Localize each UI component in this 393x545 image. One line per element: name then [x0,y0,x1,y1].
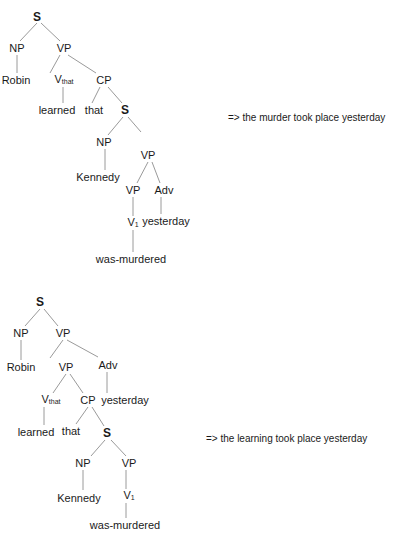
tree-edge [152,162,160,183]
tree1-leaf-robin: Robin [2,74,31,86]
tree2-leaf-was-murdered: was-murdered [90,519,160,531]
tree-edge [50,55,60,73]
tree1-node-adv: Adv [155,184,174,196]
tree1-node-NP: NP [9,42,24,54]
tree1-leaf-was-murdered: was-murdered [96,253,166,265]
tree2-node-vthat: Vthat [41,393,60,408]
tree-edge [68,55,96,73]
tree-edge [76,407,88,424]
tree1-node-S-embedded: S [121,104,129,116]
tree2-gloss: => the learning took place yesterday [206,433,367,445]
tree1-leaf-yesterday: yesterday [142,215,190,227]
tree-edge [44,309,58,326]
tree1-leaf-that: that [85,104,103,116]
tree2-node-VP: VP [56,327,71,339]
tree1-leaf-kennedy: Kennedy [76,171,119,183]
tree1-node-v1: V1 [127,216,138,231]
tree2-node-v1: V1 [123,489,134,504]
tree1-node-VP-embedded: VP [141,149,156,161]
tree-edge [137,162,148,183]
tree1-node-CP: CP [96,74,111,86]
tree1-node-VP: VP [57,42,72,54]
tree2-leaf-learned: learned [18,426,55,438]
tree2-leaf-yesterday: yesterday [101,394,149,406]
tree2-node-S: S [36,296,44,308]
tree-edge [91,440,105,456]
tree-edge [108,87,122,103]
tree-edge [41,23,60,41]
tree2-node-S-embedded: S [103,427,111,439]
tree-edge [20,23,37,41]
tree1-gloss: => the murder took place yesterday [228,112,385,124]
tree1-node-VP-inner: VP [126,184,141,196]
tree2-leaf-that: that [62,425,80,437]
tree2-node-VP-inner: VP [59,361,74,373]
tree1-node-S: S [33,11,41,23]
tree1-leaf-learned: learned [39,104,76,116]
tree-edge [111,440,126,456]
tree-edge [53,374,66,393]
tree2-node-CP: CP [80,394,95,406]
tree2-leaf-kennedy: Kennedy [57,492,100,504]
tree-edge [92,87,100,103]
tree-edge [108,117,123,135]
tree1-node-NP-embedded: NP [96,136,111,148]
tree2-node-NP: NP [13,327,28,339]
tree2-node-NP-embedded: NP [75,457,90,469]
tree-edge [50,340,63,358]
tree2-leaf-robin: Robin [7,361,36,373]
tree1-node-vthat: Vthat [54,73,73,88]
tree-edge [67,340,98,357]
syntax-tree-diagram: S NP VP Robin Vthat CP learned that S NP… [0,0,393,545]
tree-edge [92,407,104,426]
tree-edge [70,374,83,393]
tree-edge [25,309,40,326]
tree-edge [128,117,141,132]
tree2-node-adv: Adv [99,359,118,371]
tree2-node-VP-embedded: VP [122,457,137,469]
